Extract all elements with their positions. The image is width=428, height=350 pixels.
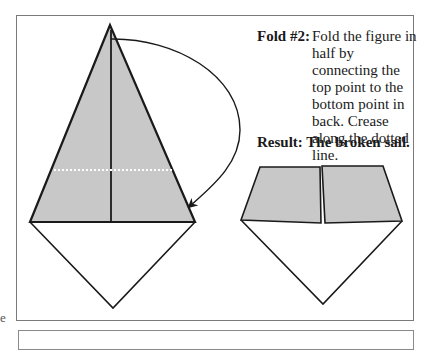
broken-sail-figure [241, 166, 402, 304]
before-fold-figure [30, 25, 240, 308]
result-caption: Result: The broken sail. [257, 134, 410, 151]
margin-text-fragment: e [0, 310, 6, 326]
right-sail-half [322, 166, 402, 223]
lower-triangle-edges [241, 220, 402, 304]
left-sail-half [241, 167, 321, 223]
lower-kite-edges [30, 222, 195, 308]
fold-step-label: Fold #2: [257, 28, 310, 45]
shaded-sail-triangle [30, 25, 195, 222]
